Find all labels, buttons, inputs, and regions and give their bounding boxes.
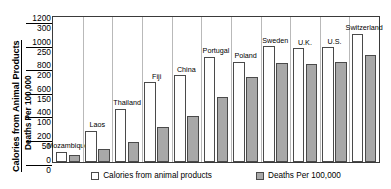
bar-calories-thailand [115, 109, 127, 162]
bar-group-label: Fiji [152, 73, 161, 81]
bar-group-label: Thailand [113, 99, 141, 107]
legend-label-deaths: Deaths Per 100,000 [268, 171, 341, 180]
y-tick-deaths-300: 300 [26, 24, 52, 33]
bar-group-label: Portugal [203, 47, 230, 55]
bar-calories-fiji [144, 82, 156, 162]
bar-group: Fiji [142, 17, 172, 162]
bar-group-label: Laos [90, 121, 106, 129]
y-tick-deaths-0: 0 [26, 166, 52, 175]
y-axis-title-calories: Calories from Animal Products [11, 40, 22, 172]
bar-calories-u-s [322, 47, 334, 162]
y-tick-deaths-100: 100 [26, 118, 52, 127]
bar-calories-sweden [263, 46, 275, 162]
y-tick-deaths-150: 150 [26, 95, 52, 104]
bar-group: U.S. [320, 17, 350, 162]
bar-calories-china [174, 75, 186, 162]
bar-deaths-sweden [276, 63, 288, 162]
bar-group: Sweden [261, 17, 291, 162]
y-tick-deaths-200: 200 [26, 71, 52, 80]
bar-calories-poland [233, 62, 245, 162]
bar-deaths-fiji [157, 127, 169, 162]
bar-group: Switzerland [349, 17, 379, 162]
bar-deaths-portugal [217, 97, 229, 162]
bar-chart: Calories from Animal Products Deaths Per… [0, 0, 391, 189]
legend-item-calories: Calories from animal products [91, 171, 212, 180]
plot-area: MozambiqueLaosThailandFijiChinaPortugalP… [52, 16, 380, 163]
bar-deaths-mozambique [69, 155, 81, 162]
legend-swatch-deaths-icon [256, 172, 264, 180]
legend-item-deaths: Deaths Per 100,000 [256, 171, 341, 180]
bar-group: Poland [231, 17, 261, 162]
bar-group-label: U.K. [298, 39, 312, 47]
bar-group-label: Switzerland [346, 24, 383, 32]
bar-calories-u-k [293, 48, 305, 162]
bar-group: China [172, 17, 202, 162]
bar-calories-switzerland [352, 34, 364, 162]
bar-group-label: U.S. [327, 38, 341, 46]
bar-group-label: Poland [234, 52, 256, 60]
bar-group: Portugal [201, 17, 231, 162]
bar-deaths-poland [246, 77, 258, 162]
legend-swatch-calories-icon [91, 172, 99, 180]
bar-deaths-u-s [335, 62, 347, 163]
bar-calories-portugal [204, 57, 216, 162]
bar-group-label: Sweden [262, 37, 288, 45]
bar-calories-mozambique [56, 152, 68, 162]
bar-group-label: China [177, 66, 196, 74]
bar-group: Mozambique [53, 17, 83, 162]
bar-deaths-u-k [306, 64, 318, 162]
bar-deaths-switzerland [365, 55, 377, 162]
bars-container: MozambiqueLaosThailandFijiChinaPortugalP… [53, 17, 379, 162]
bar-group: Laos [83, 17, 113, 162]
bar-deaths-china [187, 116, 199, 162]
legend-label-calories: Calories from animal products [103, 171, 212, 180]
bar-group: Thailand [112, 17, 142, 162]
bar-group: U.K. [290, 17, 320, 162]
bar-deaths-laos [98, 149, 110, 162]
bar-calories-laos [85, 131, 97, 162]
chart-legend: Calories from animal products Deaths Per… [52, 171, 380, 180]
bar-deaths-thailand [128, 142, 140, 162]
y-tick-deaths-250: 250 [26, 48, 52, 57]
